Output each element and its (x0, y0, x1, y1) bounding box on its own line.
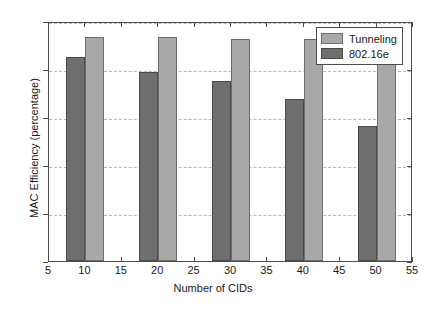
x-tick-label: 5 (33, 264, 63, 276)
y-tick (43, 262, 48, 263)
legend-item-Tunneling: Tunneling (321, 31, 397, 46)
bar-80216e-10 (66, 57, 85, 261)
x-tick-top (84, 22, 85, 27)
y-tick-right (407, 262, 412, 263)
x-tick-top (412, 22, 413, 27)
y-tick-right (407, 118, 412, 119)
legend-swatch-icon (321, 48, 343, 59)
x-tick-label: 30 (215, 264, 245, 276)
legend-label: 802.16e (349, 48, 389, 60)
bar-80216e-40 (285, 99, 304, 261)
bar-80216e-50 (358, 126, 377, 261)
legend-item-80216e: 802.16e (321, 46, 397, 61)
x-tick (157, 257, 158, 262)
chart-legend: Tunneling802.16e (316, 27, 403, 65)
x-tick (230, 257, 231, 262)
bar-Tunneling-30 (231, 39, 250, 261)
bar-80216e-20 (139, 72, 158, 261)
bar-80216e-30 (212, 81, 231, 261)
x-tick-top (303, 22, 304, 27)
y-axis-title: MAC Efficiency (percentage) (28, 38, 40, 258)
y-tick-right (407, 70, 412, 71)
x-tick-label: 25 (179, 264, 209, 276)
chart-figure: 5060708090100510152025303540455055 MAC E… (0, 0, 426, 310)
legend-label: Tunneling (349, 33, 397, 45)
bar-Tunneling-50 (377, 39, 396, 261)
x-tick-label: 15 (106, 264, 136, 276)
y-tick (43, 118, 48, 119)
legend-swatch-icon (321, 33, 343, 44)
x-tick-top (157, 22, 158, 27)
x-tick-top (194, 22, 195, 27)
bar-Tunneling-20 (158, 37, 177, 261)
x-tick-label: 50 (361, 264, 391, 276)
x-axis-title: Number of CIDs (0, 282, 426, 294)
x-tick (412, 257, 413, 262)
x-tick (194, 257, 195, 262)
x-tick (84, 257, 85, 262)
x-tick (339, 257, 340, 262)
x-tick-top (121, 22, 122, 27)
x-tick-label: 10 (69, 264, 99, 276)
y-tick (43, 166, 48, 167)
x-tick (266, 257, 267, 262)
x-tick-label: 55 (397, 264, 426, 276)
x-tick (121, 257, 122, 262)
y-tick-right (407, 166, 412, 167)
x-tick (303, 257, 304, 262)
x-tick-label: 40 (288, 264, 318, 276)
y-tick-right (407, 214, 412, 215)
y-tick (43, 70, 48, 71)
x-tick-top (48, 22, 49, 27)
y-tick (43, 214, 48, 215)
x-tick-label: 45 (324, 264, 354, 276)
x-tick-top (266, 22, 267, 27)
bar-Tunneling-10 (85, 37, 104, 261)
bar-Tunneling-40 (304, 39, 323, 261)
x-tick-top (230, 22, 231, 27)
x-tick (376, 257, 377, 262)
x-tick-label: 35 (251, 264, 281, 276)
x-tick (48, 257, 49, 262)
x-tick-label: 20 (142, 264, 172, 276)
